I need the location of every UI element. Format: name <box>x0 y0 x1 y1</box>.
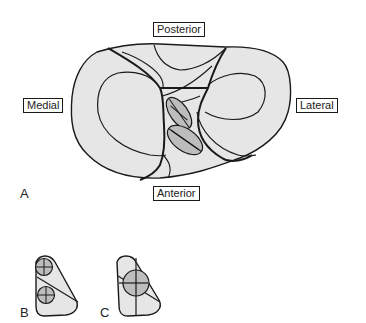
panel-letter-c: C <box>100 305 109 320</box>
label-medial: Medial <box>23 98 63 113</box>
tibial-plateau-diagram <box>0 0 366 323</box>
panel-c-footprint <box>117 256 160 316</box>
label-anterior: Anterior <box>153 186 200 201</box>
panel-letter-b: B <box>20 305 29 320</box>
label-lateral: Lateral <box>296 98 338 113</box>
panel-b-footprint <box>36 256 79 316</box>
panel-letter-a: A <box>20 186 29 201</box>
label-posterior: Posterior <box>153 22 205 37</box>
